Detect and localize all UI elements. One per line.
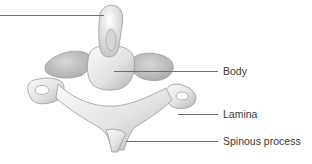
bone-group: [28, 5, 196, 152]
right-foramen-icon: [176, 92, 188, 100]
left-articular-facet: [45, 51, 91, 78]
dens-articular-facet: [106, 29, 116, 51]
left-foramen-icon: [35, 86, 49, 95]
label-body: Body: [223, 65, 247, 77]
label-lamina: Lamina: [223, 108, 257, 120]
body-leader-line: [114, 71, 218, 72]
lamina-leader-line: [178, 114, 218, 115]
vertebra-diagram: Body Lamina Spinous process: [0, 0, 312, 164]
right-articular-facet: [131, 53, 173, 80]
label-spinous-process: Spinous process: [223, 135, 301, 147]
dens-leader-line: [0, 15, 104, 16]
spinous-leader-line: [126, 141, 218, 142]
